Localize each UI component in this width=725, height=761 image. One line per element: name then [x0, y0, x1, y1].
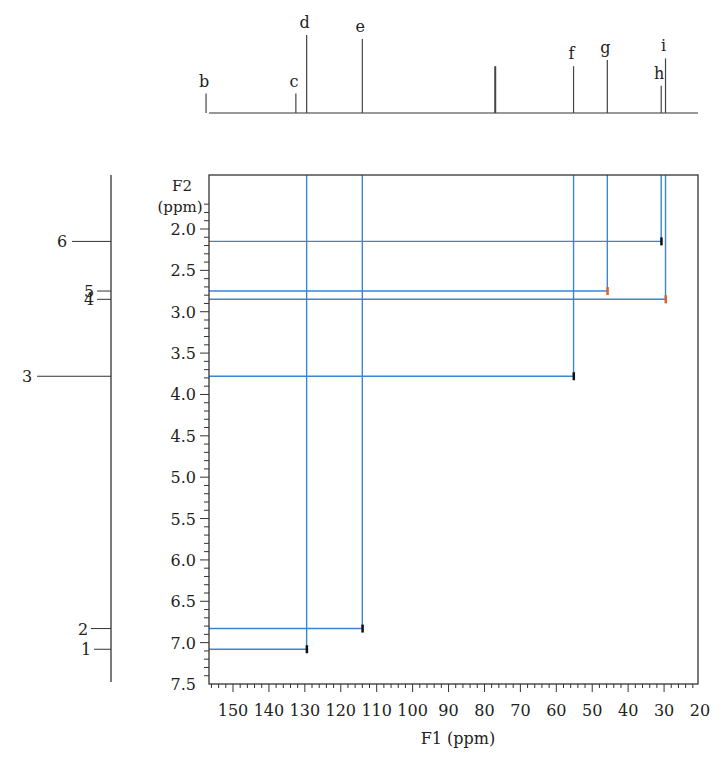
carbon-peak-label: i: [661, 36, 666, 55]
carbon-peak-label: g: [600, 38, 610, 57]
y-tick-label: 6.5: [171, 592, 196, 611]
y-tick-label: 2.0: [171, 220, 196, 239]
carbon-peak-label: b: [199, 72, 209, 91]
cross-peak: [573, 372, 576, 380]
x-tick-label: 140: [254, 701, 285, 720]
cross-peak: [306, 645, 309, 653]
x-axis-label: F1 (ppm): [421, 729, 496, 748]
x-tick-label: 110: [361, 701, 392, 720]
proton-peak-label: 1: [81, 640, 91, 659]
proton-peak-label: 4: [84, 290, 94, 309]
x-tick-label: 120: [325, 701, 356, 720]
y-axis-label-line2: (ppm): [157, 198, 202, 216]
plot-frame: [209, 175, 698, 684]
y-tick-label: 6.0: [171, 551, 196, 570]
x-tick-label: 20: [690, 701, 710, 720]
y-tick-label: 7.0: [171, 634, 196, 653]
cross-peak: [665, 295, 668, 303]
carbon-13-spectrum: bcdefghi: [199, 13, 698, 113]
x-tick-label: 90: [438, 701, 458, 720]
y-tick-label: 5.0: [171, 468, 196, 487]
y-tick-label: 3.0: [171, 303, 196, 322]
x-tick-label: 150: [218, 701, 249, 720]
y-tick-label: 4.5: [171, 427, 196, 446]
x-tick-label: 100: [397, 701, 428, 720]
x-tick-label: 80: [474, 701, 494, 720]
y-tick-label: 7.5: [171, 675, 196, 694]
y-axis: 2.02.53.03.54.04.55.05.56.06.57.07.5: [171, 204, 209, 694]
carbon-peak-label: f: [569, 44, 576, 63]
x-tick-label: 30: [654, 701, 674, 720]
x-axis: 1501401301201101009080706050403020: [211, 684, 710, 720]
carbon-peak-label: e: [356, 17, 365, 36]
x-tick-label: 70: [510, 701, 530, 720]
proton-peak-label: 3: [22, 367, 32, 386]
proton-spectrum: 654321: [22, 175, 111, 682]
correlation-lines: [209, 175, 666, 649]
proton-peak-label: 6: [57, 232, 67, 251]
cross-peak: [361, 625, 364, 633]
proton-peak-label: 2: [78, 620, 88, 639]
cross-peak: [660, 237, 663, 245]
y-tick-label: 3.5: [171, 344, 196, 363]
hsqc-chart: bcdefghi 654321 2.02.53.03.54.04.55.05.5…: [0, 0, 725, 761]
carbon-peak-label: h: [654, 64, 664, 83]
x-tick-label: 40: [618, 701, 638, 720]
y-tick-label: 2.5: [171, 261, 196, 280]
y-axis-label-line1: F2: [172, 177, 192, 195]
x-tick-label: 60: [546, 701, 566, 720]
x-tick-label: 50: [582, 701, 602, 720]
y-tick-label: 4.0: [171, 385, 196, 404]
carbon-peak-label: c: [289, 72, 298, 91]
x-tick-label: 130: [290, 701, 321, 720]
y-tick-label: 5.5: [171, 510, 196, 529]
cross-peak: [606, 287, 609, 295]
carbon-peak-label: d: [300, 13, 310, 32]
